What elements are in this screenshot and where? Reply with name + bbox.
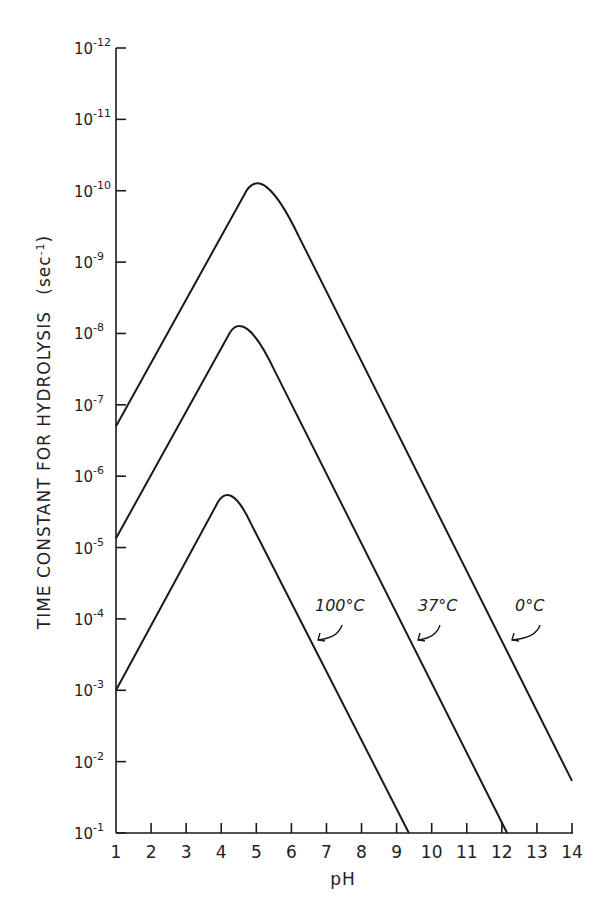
- y-tick-label: 10-4: [74, 607, 104, 629]
- x-tick-label: 6: [286, 842, 297, 862]
- y-axis-title-unit-close: ): [34, 235, 54, 243]
- curve-labels: 0°C37°C100°C: [315, 596, 545, 641]
- y-ticks: 10-1210-1110-1010-910-810-710-610-510-41…: [74, 36, 126, 843]
- y-tick-label: 10-7: [74, 393, 104, 415]
- x-tick-label: 3: [181, 842, 192, 862]
- x-tick-label: 8: [356, 842, 367, 862]
- x-tick-label: 7: [321, 842, 332, 862]
- y-axis-title: TIME CONSTANT FOR HYDROLYSIS (sec-1): [34, 235, 55, 631]
- arrowhead-icon: [418, 633, 425, 641]
- curve-100Cc: [116, 495, 409, 833]
- y-tick-label: 10-3: [74, 678, 104, 700]
- x-tick-label: 10: [421, 842, 443, 862]
- x-tick-label: 9: [391, 842, 402, 862]
- curves: [116, 183, 572, 833]
- y-tick-label: 10-12: [74, 36, 111, 58]
- curve-label: 37°C: [418, 596, 458, 615]
- x-tick-label: 1: [111, 842, 122, 862]
- x-tick-label: 14: [561, 842, 583, 862]
- label-arrow: [318, 625, 342, 640]
- curve-37Cc: [116, 326, 507, 833]
- y-tick-label: 10-9: [74, 250, 104, 272]
- y-tick-label: 10-10: [74, 179, 111, 201]
- axes: [116, 48, 573, 833]
- label-arrow: [512, 625, 540, 640]
- curve-label: 100°C: [315, 596, 366, 615]
- hydrolysis-chart: 10-1210-1110-1010-910-810-710-610-510-41…: [0, 0, 605, 907]
- x-ticks: 1234567891011121314: [111, 823, 583, 862]
- y-tick-label: 10-5: [74, 536, 104, 558]
- y-axis-title-unit: (sec: [34, 255, 54, 294]
- x-tick-label: 4: [216, 842, 227, 862]
- label-arrow: [418, 625, 440, 640]
- y-tick-label: 10-1: [74, 821, 104, 843]
- x-tick-label: 5: [251, 842, 262, 862]
- y-tick-label: 10-2: [74, 750, 104, 772]
- x-tick-label: 13: [526, 842, 548, 862]
- x-tick-label: 2: [146, 842, 157, 862]
- curve-0Cc: [116, 183, 572, 781]
- curve-label: 0°C: [515, 596, 545, 615]
- x-axis-title: pH: [330, 869, 356, 889]
- y-tick-label: 10-6: [74, 464, 104, 486]
- y-axis-title-main: TIME CONSTANT FOR HYDROLYSIS: [34, 311, 54, 630]
- y-tick-label: 10-8: [74, 321, 104, 343]
- x-tick-label: 12: [491, 842, 513, 862]
- x-tick-label: 11: [456, 842, 478, 862]
- y-tick-label: 10-11: [74, 107, 111, 129]
- y-axis-title-unit-sup: -1: [34, 242, 47, 255]
